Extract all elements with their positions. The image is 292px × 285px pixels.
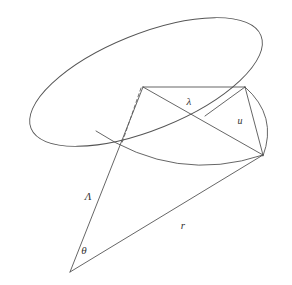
label-lambda-uppercase: Λ — [84, 190, 92, 202]
right-cap-arc — [245, 87, 268, 156]
geometry-figure: λ u Λ r θ — [0, 0, 292, 285]
label-u: u — [238, 115, 243, 126]
label-theta: θ — [81, 244, 87, 256]
label-lambda: λ — [186, 95, 192, 107]
outer-ellipse — [13, 0, 279, 173]
inner-rim-arc — [96, 131, 263, 165]
label-r: r — [181, 219, 186, 231]
segment-u-line — [205, 87, 245, 116]
edge-right-line — [245, 87, 263, 155]
diagonal-lambda-line — [143, 87, 263, 155]
outer-ellipse-path — [13, 0, 279, 173]
diagram-canvas: λ u Λ r θ — [0, 0, 292, 285]
generator-r-line — [70, 155, 263, 272]
